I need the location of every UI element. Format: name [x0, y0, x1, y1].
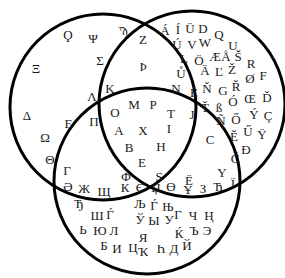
glyph-bottom-only: Ђ: [74, 197, 84, 210]
glyph-bottom-only: Л: [110, 224, 119, 237]
glyph-right-bottom: Ë: [185, 174, 193, 187]
glyph-right-only: Ř: [232, 80, 241, 93]
glyph-bottom-only: Ө: [166, 180, 175, 193]
glyph-right-only: Q: [214, 28, 223, 41]
glyph-right-only: R: [247, 57, 256, 70]
glyph-bottom-only: Ю: [93, 224, 106, 237]
glyph-right-only: Ĕ: [230, 130, 238, 143]
glyph-bottom-only: Ч: [189, 209, 197, 222]
glyph-right-only: Ů: [176, 67, 185, 80]
glyph-right-only: Í: [176, 23, 180, 36]
glyph-right-only: V: [187, 38, 196, 51]
glyph-all-three: B: [125, 141, 134, 154]
glyph-bottom-only: И: [112, 242, 121, 255]
glyph-boundary: S: [155, 170, 162, 183]
glyph-right-only: Ä: [200, 64, 209, 77]
glyph-right-bottom: Y: [217, 166, 226, 179]
glyph-right-only: É: [190, 86, 198, 99]
glyph-all-three: M: [128, 98, 140, 111]
glyph-all-three: I: [167, 122, 171, 135]
glyph-bottom-only: Ь: [79, 223, 86, 236]
glyph-bottom-only: Ш: [90, 209, 103, 222]
glyph-left-only: Θ: [45, 153, 54, 166]
glyph-left-right: Þ: [139, 60, 146, 73]
glyph-right-bottom: N: [171, 82, 180, 95]
glyph-bottom-only: Ң: [204, 209, 213, 222]
glyph-right-only: L: [180, 52, 188, 65]
glyph-right-only: Ó: [228, 95, 237, 108]
glyph-bottom-only: Д: [170, 242, 179, 255]
glyph-right-only: F: [259, 69, 266, 82]
glyph-bottom-only: З: [200, 182, 207, 195]
glyph-bottom-only: Є: [136, 181, 145, 194]
glyph-bottom-only: Ў: [135, 213, 144, 226]
glyph-bottom-only: Ҡ: [138, 245, 148, 258]
glyph-bottom-only: Э: [203, 224, 212, 237]
glyph-right-only: Ť: [201, 101, 209, 114]
glyph-left-only: Ϙ: [63, 28, 72, 41]
glyph-right-only: Č: [231, 152, 240, 165]
glyph-bottom-only: Щ: [97, 185, 110, 198]
glyph-left-only: Ϡ: [118, 24, 128, 37]
glyph-bottom-only: Ѓ: [106, 208, 114, 221]
glyph-left-only: Δ: [23, 109, 31, 122]
glyph-right-only: Ü: [185, 22, 194, 35]
glyph-right-only: D: [198, 22, 207, 35]
glyph-right-only: Ø: [245, 72, 254, 85]
glyph-left-only: Σ: [96, 54, 104, 67]
glyph-left-only: Ξ: [32, 62, 40, 75]
glyph-right-only: Ď: [262, 91, 271, 104]
glyph-right-only: W: [199, 36, 211, 49]
glyph-right-only: Ÿ: [257, 128, 266, 141]
glyph-left-right: Z: [139, 33, 147, 46]
venn-diagram: ϘΨϠΣΞΔϜΩΘÁÍÜDQÚVWULÖÆÅŠRŮÄĽŽØFÉŇGŘÓŒĎŤßÑ…: [0, 0, 285, 278]
glyph-right-only: Ç: [264, 109, 273, 122]
glyph-right-only: Œ: [244, 92, 256, 105]
glyph-all-three: T: [167, 107, 175, 120]
glyph-bottom-only: Ж: [78, 182, 90, 195]
glyph-left-only: Ψ: [88, 32, 98, 45]
glyph-left-bottom: Λ: [87, 90, 96, 103]
glyph-right-only: Á: [160, 24, 169, 37]
glyph-left-bottom: Γ: [63, 164, 71, 177]
glyph-all-three: X: [138, 124, 147, 137]
glyph-right-only: Ň: [202, 82, 211, 95]
glyph-right-only: Ľ: [215, 65, 223, 78]
glyph-bottom-only: Һ: [157, 242, 165, 255]
glyph-right-only: G: [218, 84, 227, 97]
glyph-right-only: Ž: [228, 63, 236, 76]
glyph-right-only: Ý: [249, 108, 258, 121]
glyph-boundary: Φ: [121, 170, 131, 183]
glyph-bottom-only: Ї: [231, 177, 235, 190]
glyph-right-only: Ñ: [216, 114, 225, 127]
glyph-right-only: Ű: [243, 125, 252, 138]
glyph-bottom-only: Ъ: [189, 224, 198, 237]
glyph-bottom-only: Ц: [128, 241, 137, 254]
glyph-left-only: Ω: [40, 131, 50, 144]
glyph-bottom-only: Г: [174, 208, 182, 221]
glyph-right-only: Đ: [241, 143, 250, 156]
glyph-bottom-only: Я: [139, 231, 148, 244]
glyph-right-bottom: C: [206, 133, 215, 146]
glyph-left-only: Ϝ: [64, 117, 71, 130]
glyph-right-only: Æ: [209, 50, 221, 63]
glyph-all-three: A: [114, 124, 123, 137]
glyph-all-three: O: [110, 106, 119, 119]
glyph-right-bottom: J: [189, 108, 194, 121]
glyph-all-three: H: [156, 140, 165, 153]
glyph-left-right: K: [105, 82, 114, 95]
glyph-right-only: Ú: [172, 38, 181, 51]
glyph-all-three: P: [149, 98, 156, 111]
glyph-bottom-only: Ћ: [213, 180, 223, 193]
glyph-bottom-only: Ə: [63, 180, 72, 193]
glyph-left-bottom: Π: [89, 115, 98, 128]
glyph-bottom-only: Б: [100, 239, 107, 252]
glyph-bottom-only: Й: [182, 239, 191, 252]
glyph-bottom-only: Љ: [134, 197, 145, 210]
glyph-all-three: E: [138, 156, 146, 169]
glyph-bottom-only: Ѓ: [150, 199, 158, 212]
glyph-bottom-only: У: [164, 213, 173, 226]
glyph-right-only: Ő: [231, 113, 240, 126]
glyph-bottom-only: Ы: [148, 214, 159, 227]
